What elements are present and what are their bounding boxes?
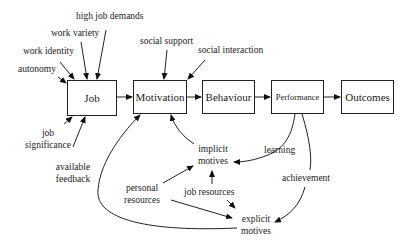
high-job-demands-label: high job demands — [76, 10, 144, 22]
achievement-label: achievement — [282, 172, 330, 184]
arrow-explicit-to-motivation — [98, 115, 237, 229]
arrow-personal-to-explicit — [171, 200, 232, 218]
implicit-motives-label: implicit motives — [193, 143, 233, 167]
available-feedback-label: available feedback — [48, 161, 98, 185]
job-resources-label: job resources — [184, 186, 234, 198]
outcomes-label: Outcomes — [345, 91, 390, 103]
performance-label: Performance — [276, 92, 319, 102]
job-label: Job — [84, 92, 99, 104]
motivation-label: Motivation — [136, 91, 185, 103]
arrow-jobres-to-explicit — [227, 200, 235, 208]
autonomy-label: autonomy — [18, 63, 56, 75]
arrow-work-identity — [60, 62, 74, 79]
arrow-achievement-to-explicit — [275, 187, 305, 222]
social-support-label: social support — [140, 35, 193, 47]
work-variety-label: work variety — [51, 27, 99, 39]
work-identity-label: work identity — [23, 45, 74, 57]
social-interaction-label: social interaction — [198, 44, 263, 56]
arrow-personal-to-implicit — [163, 166, 193, 183]
outcomes-box: Outcomes — [341, 80, 394, 114]
learning-label: learning — [264, 144, 295, 156]
job-significance-label: job significance — [22, 127, 74, 151]
line-achievement-top — [302, 114, 311, 170]
motivation-box: Motivation — [133, 80, 187, 114]
behaviour-box: Behaviour — [202, 80, 255, 114]
explicit-motives-label: explicit motives — [236, 213, 276, 237]
arrow-job-significance — [64, 117, 72, 124]
arrow-implicit-to-motivation — [171, 115, 194, 144]
arrow-social-interaction — [188, 60, 205, 79]
performance-box: Performance — [271, 80, 324, 114]
behaviour-label: Behaviour — [206, 91, 252, 103]
arrow-autonomy — [58, 77, 66, 83]
personal-resources-label: personal resources — [119, 182, 165, 206]
arrow-available-feedback — [73, 117, 85, 147]
job-box: Job — [67, 80, 117, 116]
arrow-social-support — [164, 50, 167, 79]
arrow-work-variety — [81, 42, 87, 79]
